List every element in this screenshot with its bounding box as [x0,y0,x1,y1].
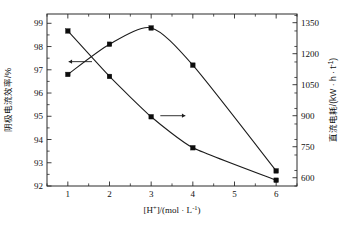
y-left-tick-label: 97 [34,65,44,75]
data-point-marker [107,74,112,79]
y-axis-right-title-tail: ) [328,58,338,61]
data-curves [68,28,276,181]
y-left-tick-label: 93 [34,158,44,168]
axis-ticks [47,14,297,186]
x-tick-label: 1 [66,189,71,199]
data-point-marker [274,178,279,183]
x-tick-label: 4 [191,189,196,199]
y-right-tick-label: 600 [301,173,315,183]
data-markers [66,26,279,183]
x-axis-title-close: ]/(mol · L [157,205,193,215]
right-axis-arrow-head [182,114,185,118]
chart-figure: 1234569293949596979899600750900105012001… [0,0,345,225]
left-axis-arrow-head [69,60,72,64]
curve-right [68,31,276,180]
x-axis-title-tail: ) [198,205,201,215]
plot-border [47,14,297,186]
y-right-tick-label: 1050 [301,80,320,90]
data-point-marker [274,169,279,174]
data-point-marker [191,145,196,150]
y-right-tick-label: 1200 [301,49,320,59]
data-point-marker [107,42,112,47]
y-right-tick-label: 900 [301,111,315,121]
x-tick-label: 6 [274,189,279,199]
axis-arrow-annotations [69,60,186,118]
x-axis-title-open: [H [143,205,153,215]
data-point-marker [149,26,154,31]
y-left-tick-label: 94 [34,135,44,145]
y-axis-right-title: 直流电耗/(kW · h · t-1) [327,58,338,142]
data-point-marker [191,63,196,68]
plot-frame [47,14,297,186]
data-point-marker [66,29,71,34]
y-right-tick-label: 1350 [301,18,320,28]
chart-canvas: 1234569293949596979899600750900105012001… [0,0,345,225]
y-left-tick-label: 95 [34,111,44,121]
y-axis-left-title: 阴极电流效率/% [3,68,13,132]
data-point-marker [66,72,71,77]
y-right-tick-label: 750 [301,142,315,152]
y-axis-right-title-head: 直流电耗/(kW · h · t [328,66,338,142]
x-tick-label: 2 [107,189,112,199]
x-tick-label: 3 [149,189,154,199]
y-left-tick-label: 99 [34,18,44,28]
data-point-marker [149,114,154,119]
curve-left [68,28,276,171]
y-left-tick-label: 92 [34,181,43,191]
x-axis-title: [H+]/(mol · L-1) [143,204,200,216]
y-left-tick-label: 96 [34,88,44,98]
y-left-tick-label: 98 [34,42,44,52]
x-tick-label: 5 [232,189,237,199]
